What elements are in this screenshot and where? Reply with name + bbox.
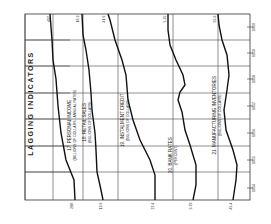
year-tick-label: 1956 (252, 129, 256, 137)
value-label: 55.6 (213, 16, 217, 23)
series-label-manufacturing-inventories: 21. MANUFACTURING INVENTORIES (BILLIONS … (212, 65, 222, 165)
year-tick-label: 1955 (252, 156, 256, 164)
year-tick-label: 1959 (252, 49, 256, 57)
value-label: 407 (47, 16, 51, 22)
value-label: 3.79 (189, 203, 193, 210)
value-label: 45.4 (229, 203, 233, 210)
year-tick-label: 1957 (252, 102, 256, 110)
chart: LAGGING INDICATORS 17. PERSONAL INCOME (… (0, 0, 271, 224)
value-label: 13.6 (99, 203, 103, 210)
value-label: 288 (70, 203, 74, 209)
series-label-bank-rates: 20. BANK RATES (PERCENT) (168, 130, 178, 180)
chart-title: LAGGING INDICATORS (27, 34, 34, 174)
series-label-instalment-credit: 19. INSTALMENT CREDIT (BILLIONS OF DOLLA… (120, 80, 130, 160)
year-tick-label: 1954 (252, 184, 256, 192)
value-label: 41.6 (102, 16, 106, 23)
chart-plot (0, 0, 271, 224)
series-label-retail-sales: 18. RETAIL SALES (BILLIONS OF DOLLARS) (82, 92, 92, 152)
year-tick-label: 1958 (252, 75, 256, 83)
value-label: 22.4 (151, 203, 155, 210)
year-tick-label: 1960 (252, 23, 256, 31)
value-label: 5.35 (163, 16, 167, 23)
value-label: 18.3 (76, 16, 80, 23)
series-label-personal-income: 17. PERSONAL INCOME (BILLIONS OF DOLLARS… (67, 70, 77, 180)
